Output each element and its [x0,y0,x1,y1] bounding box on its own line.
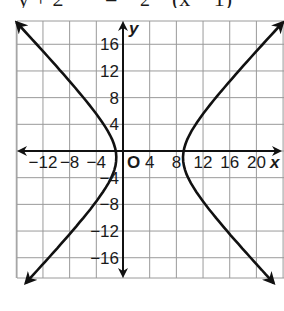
x-tick-label: 12 [194,153,213,172]
y-tick-label: −16 [90,249,119,268]
y-tick-label: −8 [100,195,119,214]
x-tick-label: 4 [145,153,154,172]
y-tick-label: −12 [90,222,119,241]
y-tick-label: 12 [100,62,119,81]
y-tick-label: 8 [110,89,119,108]
y-axis-label: y [128,19,140,38]
y-tick-label: 4 [110,115,119,134]
y-tick-label: 16 [100,35,119,54]
x-tick-label: −12 [29,153,58,172]
x-tick-label: 20 [247,153,266,172]
x-tick-label: 8 [172,153,181,172]
origin-label: O [127,153,140,172]
x-axis-label: x [269,153,281,172]
x-tick-label: −8 [60,153,79,172]
y-tick-label: −4 [100,169,119,188]
hyperbola-graph: −12−8−448121620161284−4−8−12−16Oxy [0,0,284,311]
x-tick-label: 16 [220,153,239,172]
